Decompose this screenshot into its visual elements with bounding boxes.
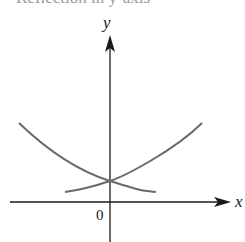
origin-label: 0 xyxy=(96,207,104,223)
x-axis-label: x xyxy=(234,192,243,211)
y-axis-label: y xyxy=(101,13,111,32)
curve-increasing-exponential xyxy=(65,123,202,192)
curve-decreasing-exponential xyxy=(19,123,156,192)
function-graph: y x 0 xyxy=(0,0,245,242)
